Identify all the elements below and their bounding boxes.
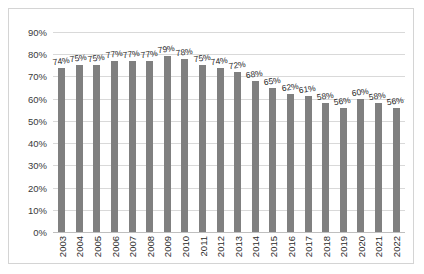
bar bbox=[234, 72, 241, 232]
bar-value-label: 77% bbox=[122, 48, 140, 61]
bar-column: 74% bbox=[211, 32, 229, 232]
bar bbox=[252, 81, 259, 232]
bar-column: 75% bbox=[88, 32, 106, 232]
bar-value-label: 72% bbox=[228, 59, 246, 72]
x-axis-tick-label: 2003 bbox=[56, 236, 67, 257]
y-axis-tick-label: 30% bbox=[28, 160, 47, 171]
bar bbox=[146, 61, 153, 232]
bar-value-label: 68% bbox=[245, 68, 263, 81]
bar-column: 61% bbox=[299, 32, 317, 232]
y-axis-tick-label: 40% bbox=[28, 138, 47, 149]
bar-value-label: 77% bbox=[105, 48, 123, 61]
bar bbox=[305, 96, 312, 232]
x-axis-tick: 2006 bbox=[106, 235, 124, 274]
bar bbox=[357, 99, 364, 232]
bar-value-label: 77% bbox=[140, 48, 158, 61]
bar-column: 75% bbox=[71, 32, 89, 232]
bar-value-label: 74% bbox=[52, 54, 70, 67]
x-axis-tick: 2013 bbox=[229, 235, 247, 274]
bar bbox=[93, 65, 100, 232]
bar-value-label: 74% bbox=[210, 54, 228, 67]
x-axis-tick: 2016 bbox=[282, 235, 300, 274]
x-axis-tick-label: 2008 bbox=[144, 236, 155, 257]
y-axis-tick-label: 50% bbox=[28, 115, 47, 126]
bar bbox=[58, 68, 65, 232]
x-axis-tick-label: 2015 bbox=[267, 236, 278, 257]
bar-column: 78% bbox=[176, 32, 194, 232]
bar-column: 68% bbox=[247, 32, 265, 232]
bar-column: 77% bbox=[106, 32, 124, 232]
x-axis-tick-label: 2010 bbox=[179, 236, 190, 257]
bar-value-label: 60% bbox=[351, 85, 369, 98]
bar-column: 62% bbox=[282, 32, 300, 232]
y-axis-tick-label: 20% bbox=[28, 182, 47, 193]
x-axis-tick: 2018 bbox=[317, 235, 335, 274]
x-axis-tick: 2011 bbox=[194, 235, 212, 274]
bar bbox=[199, 65, 206, 232]
x-axis-tick: 2005 bbox=[88, 235, 106, 274]
bar-column: 58% bbox=[317, 32, 335, 232]
x-axis-tick: 2004 bbox=[71, 235, 89, 274]
x-axis-tick-label: 2009 bbox=[162, 236, 173, 257]
y-axis-tick-label: 10% bbox=[28, 204, 47, 215]
x-axis-tick: 2019 bbox=[335, 235, 353, 274]
x-axis-tick: 2010 bbox=[176, 235, 194, 274]
x-axis-tick-label: 2014 bbox=[250, 236, 261, 257]
x-axis-tick: 2020 bbox=[352, 235, 370, 274]
x-axis-tick-label: 2005 bbox=[91, 236, 102, 257]
x-axis-tick-label: 2017 bbox=[303, 236, 314, 257]
bar bbox=[375, 103, 382, 232]
x-axis-tick: 2021 bbox=[370, 235, 388, 274]
bar-value-label: 78% bbox=[175, 45, 193, 58]
x-axis-tick: 2003 bbox=[53, 235, 71, 274]
bar bbox=[164, 56, 171, 232]
chart-frame: 0%10%20%30%40%50%60%70%80%90% 74%75%75%7… bbox=[8, 8, 414, 264]
x-axis-tick-label: 2007 bbox=[127, 236, 138, 257]
bar-value-label: 79% bbox=[157, 43, 175, 56]
bar-column: 58% bbox=[370, 32, 388, 232]
x-axis-tick-label: 2016 bbox=[285, 236, 296, 257]
bar-value-label: 61% bbox=[298, 83, 316, 96]
bar bbox=[76, 65, 83, 232]
bar-value-label: 75% bbox=[87, 52, 105, 65]
x-axis-tick-label: 2020 bbox=[355, 236, 366, 257]
x-axis-tick-label: 2021 bbox=[373, 236, 384, 257]
bar bbox=[287, 94, 294, 232]
x-axis-tick: 2015 bbox=[264, 235, 282, 274]
bar bbox=[340, 108, 347, 232]
bar-column: 65% bbox=[264, 32, 282, 232]
x-axis-tick: 2008 bbox=[141, 235, 159, 274]
x-axis-tick: 2017 bbox=[299, 235, 317, 274]
y-axis-tick-label: 80% bbox=[28, 49, 47, 60]
x-axis-labels: 2003200420052006200720082009201020112012… bbox=[53, 235, 405, 274]
x-axis-tick-label: 2019 bbox=[338, 236, 349, 257]
bar-series: 74%75%75%77%77%77%79%78%75%74%72%68%65%6… bbox=[53, 32, 405, 232]
bar-value-label: 65% bbox=[263, 74, 281, 87]
gridline bbox=[53, 232, 405, 233]
y-axis-tick-label: 0% bbox=[33, 227, 47, 238]
bar bbox=[322, 103, 329, 232]
plot-area: 0%10%20%30%40%50%60%70%80%90% 74%75%75%7… bbox=[53, 32, 405, 232]
bar bbox=[181, 59, 188, 232]
x-axis-tick-label: 2013 bbox=[232, 236, 243, 257]
bar-column: 56% bbox=[335, 32, 353, 232]
bar-value-label: 62% bbox=[281, 81, 299, 94]
x-axis-tick-label: 2018 bbox=[320, 236, 331, 257]
bar-value-label: 56% bbox=[333, 94, 351, 107]
y-axis-tick-label: 90% bbox=[28, 27, 47, 38]
bar bbox=[111, 61, 118, 232]
bar-column: 56% bbox=[387, 32, 405, 232]
bar-value-label: 75% bbox=[193, 52, 211, 65]
x-axis-tick: 2012 bbox=[211, 235, 229, 274]
bar-column: 74% bbox=[53, 32, 71, 232]
bar-value-label: 58% bbox=[369, 90, 387, 103]
x-axis-tick-label: 2004 bbox=[74, 236, 85, 257]
x-axis-tick-label: 2022 bbox=[391, 236, 402, 257]
bar-column: 72% bbox=[229, 32, 247, 232]
bar bbox=[217, 68, 224, 232]
bar bbox=[269, 88, 276, 232]
x-axis-tick: 2009 bbox=[159, 235, 177, 274]
x-axis-tick: 2007 bbox=[123, 235, 141, 274]
x-axis-tick-label: 2006 bbox=[109, 236, 120, 257]
bar-column: 79% bbox=[159, 32, 177, 232]
